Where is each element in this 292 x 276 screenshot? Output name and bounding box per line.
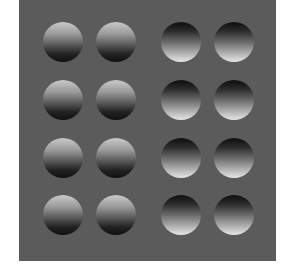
concave-disc — [214, 22, 254, 62]
convex-disc — [96, 195, 136, 235]
concave-disc — [214, 80, 254, 120]
concave-disc — [214, 138, 254, 178]
convex-disc — [96, 22, 136, 62]
convex-disc — [96, 138, 136, 178]
concave-disc — [161, 22, 201, 62]
convex-disc — [43, 22, 83, 62]
convex-disc — [43, 138, 83, 178]
convex-disc — [43, 195, 83, 235]
concave-disc — [161, 138, 201, 178]
concave-disc — [161, 195, 201, 235]
concave-disc — [214, 195, 254, 235]
convex-disc — [96, 80, 136, 120]
convex-disc — [43, 80, 83, 120]
illusion-panel — [19, 0, 276, 261]
concave-disc — [161, 80, 201, 120]
